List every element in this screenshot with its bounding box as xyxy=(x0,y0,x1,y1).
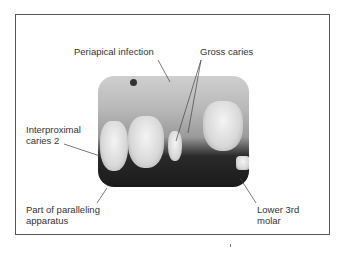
label-interproximal-caries-2: caries 2 xyxy=(26,135,59,146)
label-lower-molar-2: molar xyxy=(257,215,281,226)
label-interproximal-caries-1: Interproximal xyxy=(26,124,81,135)
tooth-3 xyxy=(168,131,182,161)
tooth-4 xyxy=(203,101,243,151)
radiopaque-dot xyxy=(130,79,137,86)
dental-xray-image xyxy=(98,76,249,187)
label-gross-caries: Gross caries xyxy=(200,46,253,57)
tooth-2 xyxy=(128,116,164,168)
lower-third-molar xyxy=(236,156,249,170)
label-periapical-infection: Periapical infection xyxy=(74,46,154,57)
scan-artifact xyxy=(230,244,231,247)
label-paralleling-2: apparatus xyxy=(26,215,68,226)
tooth-1 xyxy=(100,121,128,171)
label-paralleling-1: Part of paralleling xyxy=(26,204,100,215)
label-lower-molar-1: Lower 3rd xyxy=(257,204,299,215)
